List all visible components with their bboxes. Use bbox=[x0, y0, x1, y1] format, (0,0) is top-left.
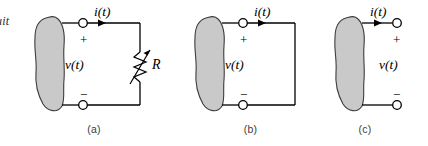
resistor-label: R bbox=[152, 58, 161, 72]
voltage-label: v(t) bbox=[65, 58, 84, 72]
voltage-label: v(t) bbox=[379, 58, 398, 72]
polarity-minus: − bbox=[240, 88, 247, 101]
polarity-plus: + bbox=[80, 33, 87, 46]
panel-caption: (a) bbox=[18, 123, 170, 135]
current-label: i(t) bbox=[94, 5, 111, 19]
panel-c: i(t) + v(t) − (c) bbox=[318, 0, 428, 146]
terminal-top bbox=[393, 19, 402, 28]
polarity-minus: − bbox=[393, 88, 400, 101]
circuit-figure: uit bbox=[0, 0, 428, 146]
current-arrow-icon bbox=[98, 20, 106, 27]
clipped-caption-text: uit bbox=[0, 14, 9, 29]
polarity-plus: + bbox=[393, 33, 400, 46]
circuit-blob-icon bbox=[195, 17, 224, 111]
current-label: i(t) bbox=[254, 5, 271, 19]
panel-caption: (c) bbox=[310, 123, 420, 135]
circuit-blob-icon bbox=[35, 17, 64, 111]
current-arrow-icon bbox=[258, 20, 266, 27]
panel-caption: (b) bbox=[178, 123, 323, 135]
circuit-blob-icon bbox=[335, 17, 364, 111]
polarity-plus: + bbox=[240, 33, 247, 46]
current-arrow-icon bbox=[374, 20, 382, 27]
terminal-top bbox=[79, 19, 88, 28]
panel-a: i(t) + v(t) − R (a) bbox=[18, 0, 170, 146]
panel-b: i(t) + v(t) − (b) bbox=[178, 0, 323, 146]
voltage-label: v(t) bbox=[225, 58, 244, 72]
current-label: i(t) bbox=[370, 5, 387, 19]
variable-resistor-icon bbox=[130, 50, 150, 84]
polarity-minus: − bbox=[80, 88, 87, 101]
terminal-top bbox=[239, 19, 248, 28]
